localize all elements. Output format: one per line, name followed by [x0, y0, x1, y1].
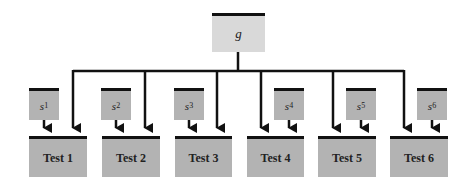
specific-factor-subscript: 4 — [289, 101, 293, 110]
test-label: Test 6 — [404, 151, 434, 166]
test-box-4: Test 4 — [247, 136, 304, 177]
test-label: Test 2 — [116, 151, 146, 166]
test-label: Test 1 — [43, 151, 73, 166]
test-box-3: Test 3 — [175, 136, 232, 177]
test-box-5: Test 5 — [318, 136, 376, 177]
specific-factor-box-1: s1 — [29, 88, 59, 120]
test-box-2: Test 2 — [102, 136, 160, 177]
general-factor-box: g — [212, 13, 265, 52]
specific-factor-subscript: 3 — [189, 101, 193, 110]
specific-factor-subscript: 1 — [44, 101, 48, 110]
specific-factor-subscript: 6 — [432, 101, 436, 110]
test-label: Test 5 — [332, 151, 362, 166]
general-factor-label: g — [235, 26, 242, 42]
test-box-1: Test 1 — [29, 136, 87, 177]
specific-factor-subscript: 2 — [116, 101, 120, 110]
test-label: Test 4 — [261, 151, 291, 166]
specific-factor-box-4: s4 — [274, 88, 304, 120]
test-label: Test 3 — [189, 151, 219, 166]
specific-factor-box-5: s5 — [346, 88, 376, 120]
specific-factor-box-3: s3 — [174, 88, 204, 120]
test-box-6: Test 6 — [390, 136, 448, 177]
specific-factor-box-2: s2 — [101, 88, 131, 120]
specific-factor-box-6: s6 — [417, 88, 447, 120]
specific-factor-subscript: 5 — [361, 101, 365, 110]
g-factor-diagram: g s1 s2 s3 s4 s5 s6 Test 1 Test 2 Test 3… — [0, 0, 470, 189]
